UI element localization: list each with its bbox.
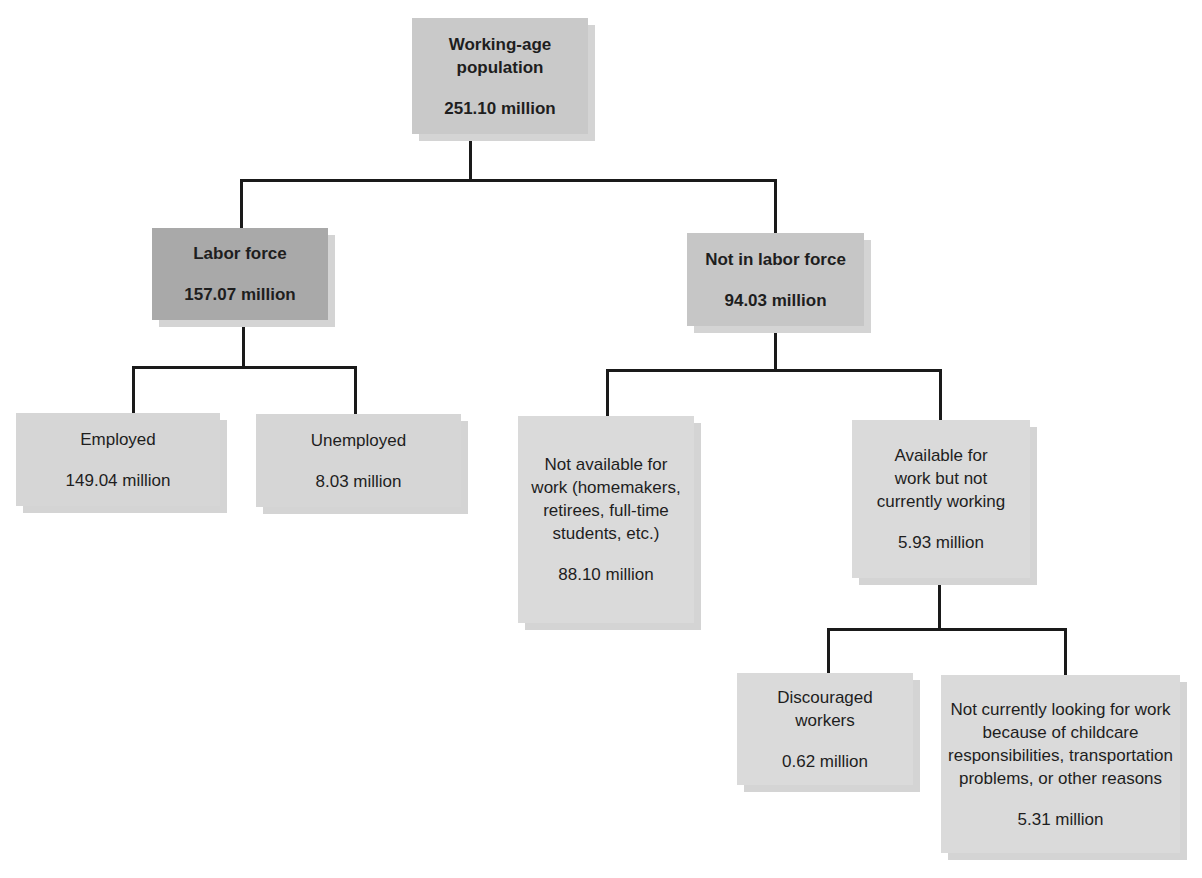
node-not-in-labor-force: Not in labor force 94.03 million: [687, 233, 864, 326]
node-label: Not in labor force: [705, 248, 846, 271]
node-employed: Employed 149.04 million: [16, 413, 220, 506]
node-unemployed: Unemployed 8.03 million: [256, 414, 461, 507]
node-value: 8.03 million: [316, 470, 402, 493]
node-label: Available for work but not currently wor…: [876, 444, 1006, 513]
connector-available-stem: [938, 578, 941, 630]
node-value: 251.10 million: [444, 97, 556, 120]
node-value: 88.10 million: [558, 563, 653, 586]
node-labor-force: Labor force 157.07 million: [152, 228, 328, 320]
node-available-not-working: Available for work but not currently wor…: [852, 420, 1030, 578]
connector-to-not-available: [606, 369, 609, 417]
node-value: 149.04 million: [66, 469, 171, 492]
connector-level2-right-horizontal: [606, 369, 942, 372]
node-label: Unemployed: [311, 429, 406, 452]
labor-force-tree-diagram: Working-age population 251.10 million La…: [0, 0, 1202, 878]
connector-level1-horizontal: [240, 179, 777, 182]
connector-level3-horizontal: [827, 628, 1067, 631]
node-value: 5.31 million: [1018, 808, 1104, 831]
node-label: Labor force: [193, 242, 287, 265]
node-label: Working-age population: [420, 33, 580, 79]
connector-to-employed: [132, 366, 135, 414]
connector-to-not-in-labor-force: [774, 180, 777, 234]
connector-to-labor-force: [240, 179, 243, 229]
connector-level2-left-horizontal: [132, 366, 357, 369]
node-label: Not available for work (homemakers, reti…: [528, 453, 684, 545]
node-value: 94.03 million: [724, 289, 826, 312]
node-working-age-population: Working-age population 251.10 million: [412, 18, 588, 134]
connector-labor-force-stem: [242, 320, 245, 368]
connector-root-stem: [469, 134, 472, 181]
connector-not-in-labor-force-stem: [774, 326, 777, 371]
connector-to-discouraged: [827, 628, 830, 674]
node-label: Not currently looking for work because o…: [947, 698, 1174, 790]
node-not-currently-looking: Not currently looking for work because o…: [941, 675, 1180, 853]
connector-to-available: [939, 370, 942, 421]
node-value: 157.07 million: [184, 283, 296, 306]
connector-to-not-looking: [1064, 629, 1067, 676]
node-discouraged-workers: Discouraged workers 0.62 million: [737, 673, 913, 785]
node-value: 5.93 million: [898, 531, 984, 554]
connector-to-unemployed: [354, 367, 357, 415]
node-value: 0.62 million: [782, 750, 868, 773]
node-not-available-for-work: Not available for work (homemakers, reti…: [518, 416, 694, 623]
node-label: Discouraged workers: [767, 686, 883, 732]
node-label: Employed: [80, 428, 156, 451]
